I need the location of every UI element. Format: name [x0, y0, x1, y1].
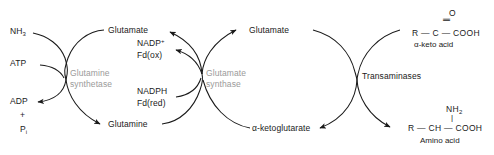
label-inorganic-phosphate: Pi: [20, 124, 27, 136]
arrow-node-to-adp: [38, 80, 66, 102]
label-ferredoxin-reduced: Fd(red): [137, 98, 166, 109]
arrow-atp-to-node: [40, 65, 64, 78]
label-glutamate-right: Glutamate: [249, 25, 289, 36]
label-ammonia: NH3: [10, 26, 26, 38]
arrow-node2-to-glutamate-left: [170, 32, 202, 74]
keto-acid-double-bond: ‖: [441, 18, 450, 22]
arrow-nadph-to-node2: [176, 78, 201, 97]
biochemical-pathway-diagram: NH3 ATP ADP + Pi Glutaminesynthetase Glu…: [0, 0, 494, 155]
label-nadph: NADPH: [137, 86, 167, 97]
arrow-node2-to-nadp-ox: [176, 50, 202, 74]
amino-acid-amine-group: NH2: [446, 104, 463, 115]
arrow-glutamate-to-node-3: [313, 30, 357, 80]
amino-acid-single-bond: |: [451, 114, 453, 122]
label-atp: ATP: [10, 58, 26, 69]
label-plus-sign: +: [20, 110, 25, 121]
keto-acid-name: α-keto acid: [414, 40, 453, 49]
arrow-nh3-to-node: [33, 33, 67, 80]
keto-acid-oxygen-atom: O: [449, 8, 456, 18]
arrow-node3-to-amino-acid: [357, 80, 390, 127]
label-alpha-ketoglutarate: α-ketoglutarate: [252, 123, 310, 134]
label-glutamine: Glutamine: [108, 119, 148, 130]
amino-acid-backbone: R — CH — COOH: [408, 123, 482, 133]
enzyme-label-glutamine-synthetase: Glutaminesynthetase: [70, 68, 112, 91]
label-nadp-oxidized: NADP+: [137, 38, 165, 49]
enzyme-label-glutamate-synthase: Glutamatesynthase: [206, 68, 246, 91]
keto-acid-backbone: R — C — COOH: [412, 28, 480, 38]
label-adp: ADP: [10, 96, 28, 107]
label-glutamate-left: Glutamate: [108, 25, 148, 36]
amino-acid-name: Amino acid: [420, 136, 460, 145]
enzyme-label-transaminases: Transaminases: [362, 71, 421, 82]
arrow-node3-to-ketoglutarate: [320, 80, 357, 128]
label-ferredoxin-oxidized: Fd(ox): [137, 50, 162, 61]
arrow-glutamine-to-node-2: [162, 74, 203, 124]
